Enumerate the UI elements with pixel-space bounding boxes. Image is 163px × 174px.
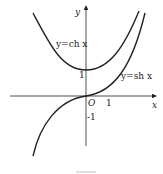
y-axis-label: y xyxy=(75,8,80,17)
x-tick-1: 1 xyxy=(106,99,112,108)
y-tick-1: 1 xyxy=(79,71,85,80)
x-axis-label: x xyxy=(152,101,157,110)
graph-canvas xyxy=(0,0,163,174)
y-tick-minus-1: -1 xyxy=(87,113,96,122)
cosh-label: y=ch x xyxy=(56,40,87,49)
origin-label: O xyxy=(88,99,95,108)
sinh-label: y=sh x xyxy=(121,72,152,81)
